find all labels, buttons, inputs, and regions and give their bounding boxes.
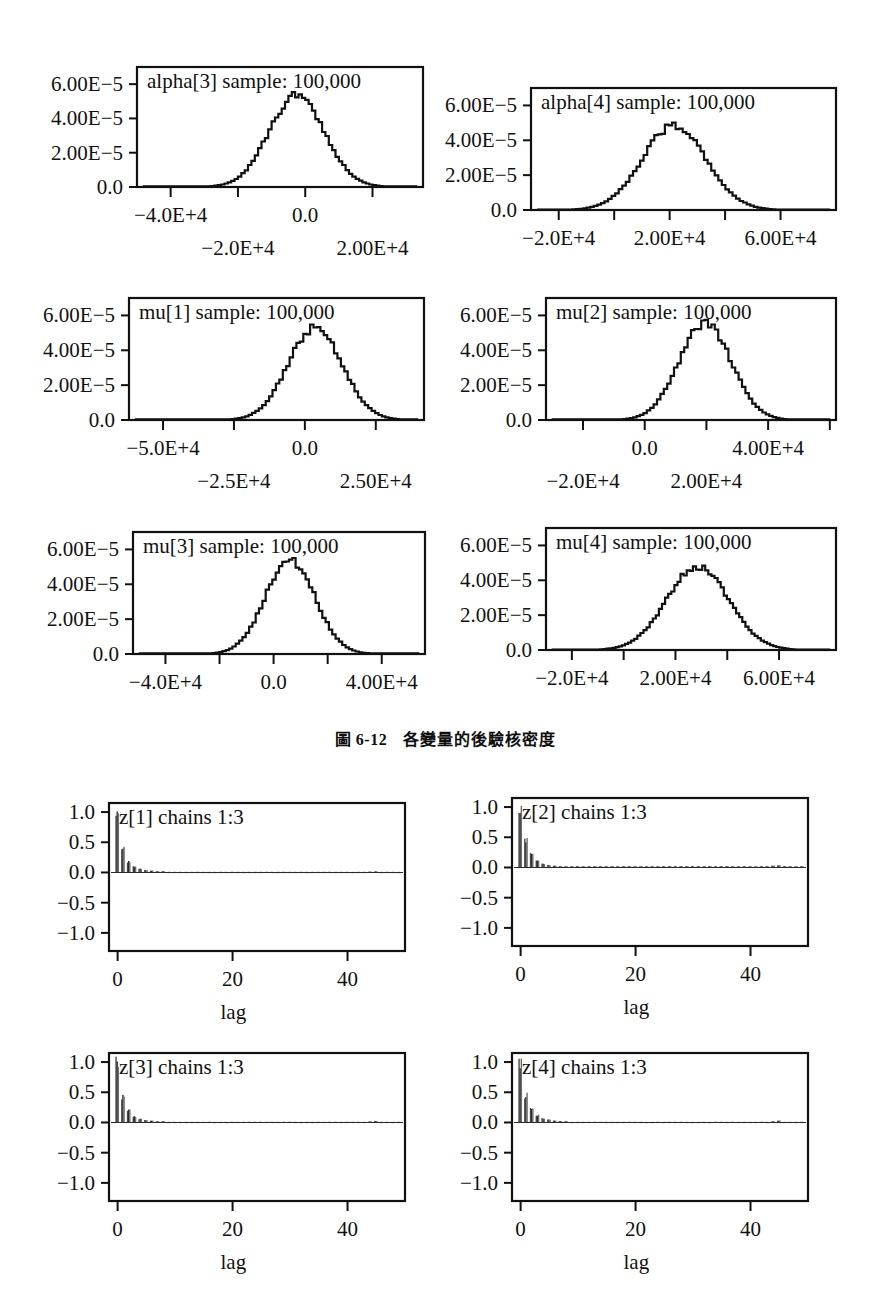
x-tick-label: 2.00E+4 — [670, 469, 742, 493]
acf-bar — [118, 1067, 119, 1122]
x-axis-label: lag — [623, 1250, 649, 1274]
y-tick-label: 4.00E−5 — [445, 128, 517, 152]
y-tick-label: 6.00E−5 — [47, 537, 119, 561]
y-tick-label: 0.5 — [472, 1080, 498, 1104]
x-tick-label: 0.0 — [260, 670, 286, 694]
density-curve — [143, 92, 418, 186]
acf-bar — [123, 847, 124, 873]
acf-bar — [532, 854, 533, 868]
x-tick-label: 0.0 — [292, 203, 318, 227]
y-tick-label: 0.5 — [472, 825, 498, 849]
y-tick-label: −0.5 — [460, 1141, 498, 1165]
acf-bar — [526, 838, 527, 868]
acf-bar — [123, 1097, 124, 1123]
x-tick-label: 40 — [337, 967, 358, 991]
acf-bar — [521, 1059, 522, 1123]
x-tick-label: 2.00E+4 — [640, 666, 712, 690]
y-tick-label: −1.0 — [460, 916, 498, 940]
y-tick-label: 1.0 — [472, 795, 498, 819]
x-tick-label: 0 — [515, 1217, 526, 1241]
figure-page: alpha[3] sample: 100,0000.02.00E−54.00E−… — [0, 0, 891, 1315]
x-tick-label: −5.0E+4 — [126, 436, 200, 460]
x-tick-label: 6.00E+4 — [745, 226, 817, 250]
x-tick-label: 2.00E+4 — [634, 226, 706, 250]
x-tick-label: 2.50E+4 — [340, 469, 412, 493]
acf-bar — [544, 1119, 545, 1123]
y-tick-label: 6.00E−5 — [460, 533, 532, 557]
density-curve — [537, 123, 830, 210]
x-axis-label: lag — [623, 995, 649, 1019]
plot-title-alpha4: alpha[4] sample: 100,000 — [541, 90, 755, 114]
density-curve — [135, 325, 418, 420]
y-tick-label: 0.0 — [69, 860, 95, 884]
y-tick-label: 1.0 — [472, 1050, 498, 1074]
x-tick-label: 6.00E+4 — [743, 666, 815, 690]
plot-title-mu3: mu[3] sample: 100,000 — [143, 534, 338, 558]
acf-bar — [538, 861, 539, 868]
y-tick-label: 2.00E−5 — [460, 373, 532, 397]
x-tick-label: −2.0E+4 — [546, 469, 620, 493]
acf-bar — [538, 1115, 539, 1123]
x-tick-label: 0 — [112, 967, 123, 991]
y-tick-label: 0.0 — [506, 408, 532, 432]
density-curve — [139, 558, 419, 653]
plot-panel-mu1: mu[1] sample: 100,0000.02.00E−54.00E−56.… — [9, 272, 452, 516]
y-tick-label: −0.5 — [460, 886, 498, 910]
x-tick-label: −2.5E+4 — [197, 469, 271, 493]
density-curve — [552, 320, 830, 420]
x-tick-label: 20 — [625, 962, 646, 986]
y-tick-label: 6.00E−5 — [445, 93, 517, 117]
x-tick-label: 20 — [625, 1217, 646, 1241]
y-tick-label: −0.5 — [57, 1141, 95, 1165]
plot-title-z4: z[4] chains 1:3 — [522, 1055, 647, 1079]
acf-bar — [129, 862, 130, 872]
plot-title-z3: z[3] chains 1:3 — [119, 1055, 244, 1079]
acf-bar — [526, 1093, 527, 1123]
y-tick-label: 2.00E−5 — [43, 373, 115, 397]
x-axis-label: lag — [220, 1000, 246, 1024]
y-tick-label: 0.0 — [491, 198, 517, 222]
plot-panel-z4: z[4] chains 1:3−1.0−0.50.00.51.002040lag — [392, 1027, 836, 1297]
x-tick-label: 0.0 — [292, 436, 318, 460]
x-tick-label: 0 — [515, 962, 526, 986]
acf-bar — [521, 806, 522, 868]
plot-panel-alpha4: alpha[4] sample: 100,0000.02.00E−54.00E−… — [411, 62, 864, 306]
acf-bar — [118, 813, 119, 872]
y-tick-label: 2.00E−5 — [47, 607, 119, 631]
plot-title-mu4: mu[4] sample: 100,000 — [556, 530, 751, 554]
y-tick-label: 0.0 — [69, 1110, 95, 1134]
y-tick-label: 2.00E−5 — [51, 141, 123, 165]
plot-panel-z2: z[2] chains 1:3−1.0−0.50.00.51.002040lag — [392, 772, 836, 1042]
x-tick-label: −4.0E+4 — [134, 203, 208, 227]
plot-panel-mu2: mu[2] sample: 100,0000.02.00E−54.00E−56.… — [426, 272, 864, 516]
y-tick-label: −1.0 — [460, 1171, 498, 1195]
acf-bar — [135, 1117, 136, 1122]
x-tick-label: 0 — [112, 1217, 123, 1241]
y-tick-label: 0.0 — [506, 638, 532, 662]
y-tick-label: 0.0 — [472, 855, 498, 879]
acf-bar — [135, 867, 136, 873]
density-curve — [552, 566, 830, 650]
acf-bar — [129, 1109, 130, 1122]
y-tick-label: 1.0 — [69, 1050, 95, 1074]
y-tick-label: 4.00E−5 — [460, 568, 532, 592]
plot-panel-z1: z[1] chains 1:3−1.0−0.50.00.51.002040lag — [0, 777, 433, 1047]
plot-panel-mu3: mu[3] sample: 100,0000.02.00E−54.00E−56.… — [13, 506, 453, 750]
y-tick-label: 4.00E−5 — [47, 572, 119, 596]
y-tick-label: 0.0 — [89, 408, 115, 432]
plot-title-z2: z[2] chains 1:3 — [522, 800, 647, 824]
x-tick-label: 0.0 — [632, 436, 658, 460]
x-tick-label: 2.00E+4 — [337, 236, 409, 260]
x-tick-label: −2.0E+4 — [535, 666, 609, 690]
plot-title-alpha3: alpha[3] sample: 100,000 — [147, 69, 361, 93]
y-tick-label: 6.00E−5 — [460, 303, 532, 327]
x-tick-label: 40 — [740, 1217, 761, 1241]
acf-bar — [532, 1108, 533, 1122]
x-tick-label: −2.0E+4 — [522, 226, 596, 250]
y-tick-label: 0.5 — [69, 830, 95, 854]
y-tick-label: 2.00E−5 — [460, 603, 532, 627]
figure-caption-number: 圖 6-12 — [335, 731, 387, 748]
x-tick-label: 20 — [222, 967, 243, 991]
plot-panel-mu4: mu[4] sample: 100,0000.02.00E−54.00E−56.… — [426, 502, 864, 746]
y-tick-label: −1.0 — [57, 921, 95, 945]
